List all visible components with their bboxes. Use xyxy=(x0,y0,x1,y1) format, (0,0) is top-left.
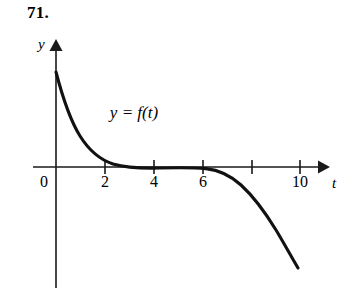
y-axis-arrowhead xyxy=(50,39,63,51)
curve-equation-label: y = f(t) xyxy=(108,103,159,122)
tick-label-10: 10 xyxy=(292,173,308,190)
tick-label-4: 4 xyxy=(150,173,158,190)
function-curve xyxy=(56,72,298,268)
x-axis-name-label: t xyxy=(332,175,337,191)
graph-plot: 0 2 4 6 10 y t y = f(t) xyxy=(0,0,347,295)
x-axis-arrowhead xyxy=(318,161,330,174)
tick-label-6: 6 xyxy=(199,173,207,190)
y-axis-name-label: y xyxy=(36,36,45,52)
figure-container: 71. 0 2 4 6 10 y t y = f(t) xyxy=(0,0,347,295)
tick-label-0: 0 xyxy=(40,173,48,190)
tick-label-2: 2 xyxy=(101,173,109,190)
